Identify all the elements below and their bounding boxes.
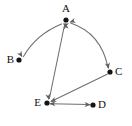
node-label-b: B — [7, 53, 14, 65]
node-label-a: A — [62, 2, 70, 14]
edge-e-d — [51, 104, 90, 105]
edges-layer — [24, 23, 109, 105]
edge-a-e — [49, 25, 64, 99]
graph-canvas: ABCDE — [0, 0, 132, 126]
node-label-d: D — [98, 98, 106, 110]
edge-a-b — [24, 24, 62, 57]
arrowhead-glyph — [105, 62, 111, 69]
arrowhead-glyph — [17, 51, 24, 59]
node-label-c: C — [115, 65, 122, 77]
node-dot-d — [90, 102, 95, 107]
node-dot-c — [107, 69, 112, 74]
arrowhead-toward-c — [105, 62, 111, 69]
directed-graph-diagram: ABCDE — [0, 0, 132, 126]
node-dot-e — [44, 100, 49, 105]
node-dot-b — [16, 57, 21, 62]
arrowheads-layer — [17, 18, 111, 107]
node-label-e: E — [34, 96, 41, 108]
node-dot-a — [63, 17, 68, 22]
edge-a-c — [71, 23, 108, 68]
arrowhead-toward-b — [17, 51, 24, 59]
